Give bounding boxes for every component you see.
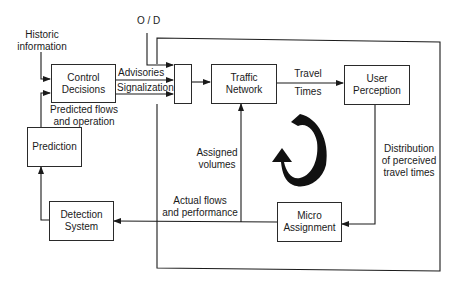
user-perception-node: UserPerception	[344, 65, 410, 105]
node-label: Network	[226, 84, 263, 95]
label-line: and performance	[160, 207, 240, 219]
node-label: Prediction	[32, 141, 76, 153]
actual-flows-label: Actual flows and performance	[160, 195, 240, 219]
label-line: Predicted flows	[48, 104, 120, 116]
times-label: Times	[288, 86, 328, 98]
label-line: volumes	[196, 159, 238, 171]
node-label: User	[366, 73, 387, 84]
signalization-label: Signalization	[117, 82, 174, 94]
assigned-volumes-label: Assigned volumes	[196, 147, 238, 171]
node-label: Traffic	[230, 72, 257, 83]
label-line: of perceived	[379, 155, 439, 167]
control-decisions-node: ControlDecisions	[51, 64, 116, 103]
predicted-flows-label: Predicted flows and operation	[48, 104, 120, 128]
label-line: Historic	[14, 29, 70, 41]
label-line: travel times	[379, 167, 439, 179]
label-line: Distribution	[379, 143, 439, 155]
junction-node	[174, 64, 192, 104]
od-label: O / D	[137, 15, 160, 27]
diagram-canvas: ControlDecisions TrafficNetwork UserPerc…	[0, 0, 454, 281]
node-label: Assignment	[283, 222, 335, 233]
label-line: and operation	[48, 116, 120, 128]
cycle-arrow-icon	[272, 114, 327, 186]
prediction-node: Prediction	[27, 127, 82, 167]
traffic-network-node: TrafficNetwork	[211, 64, 277, 104]
node-label: System	[65, 221, 98, 232]
distribution-label: Distribution of perceived travel times	[379, 143, 439, 179]
node-label: Micro	[297, 210, 321, 221]
advisories-label: Advisories	[118, 67, 164, 79]
node-label: Control	[67, 72, 99, 83]
historic-information-label: Historic information	[14, 29, 70, 53]
detection-system-node: DetectionSystem	[49, 201, 114, 241]
micro-assignment-node: MicroAssignment	[277, 202, 342, 242]
node-label: Detection	[60, 209, 102, 220]
travel-label: Travel	[288, 68, 328, 80]
node-label: Decisions	[62, 84, 105, 95]
label-line: Actual flows	[160, 195, 240, 207]
label-line: information	[14, 41, 70, 53]
node-label: Perception	[353, 85, 401, 96]
label-line: Assigned	[196, 147, 238, 159]
